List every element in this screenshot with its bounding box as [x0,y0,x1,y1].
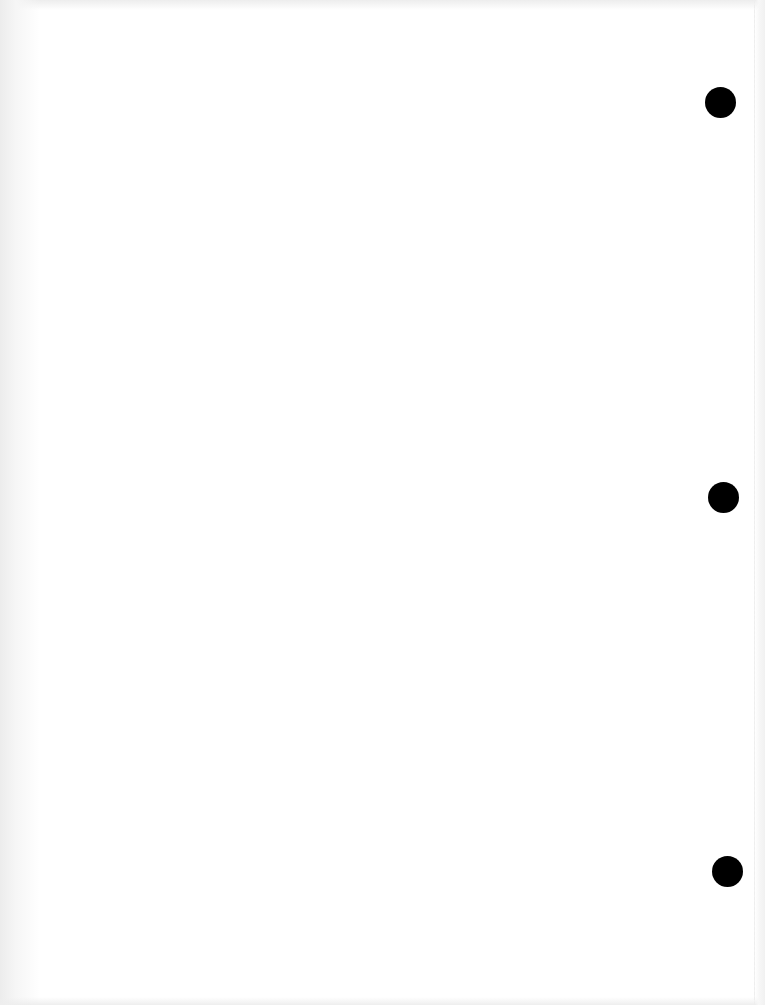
blank-page [0,0,765,1005]
page-edge-shadow-right [754,0,765,1005]
punch-hole-bottom [712,856,743,887]
page-edge-shadow-top [0,0,765,10]
page-edge-shadow-left [0,0,40,1005]
punch-hole-top [705,87,736,118]
page-edge-shadow-bottom [0,997,765,1005]
punch-hole-middle [708,482,739,513]
